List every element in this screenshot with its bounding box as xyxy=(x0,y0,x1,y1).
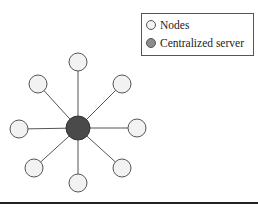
node xyxy=(29,75,47,93)
node xyxy=(113,159,131,177)
node xyxy=(69,174,87,192)
node xyxy=(128,119,146,137)
bottom-rule xyxy=(0,202,258,204)
legend-label: Centralized server xyxy=(160,37,244,49)
node xyxy=(10,120,28,138)
legend-item-nodes: Nodes xyxy=(146,18,189,32)
legend: Nodes Centralized server xyxy=(141,13,254,56)
server-swatch-icon xyxy=(146,38,156,48)
centralized-server xyxy=(66,116,90,140)
node xyxy=(113,75,131,93)
node-swatch-icon xyxy=(146,20,156,30)
node xyxy=(25,159,43,177)
legend-item-server: Centralized server xyxy=(146,36,244,50)
node xyxy=(69,53,87,71)
legend-label: Nodes xyxy=(160,19,189,31)
